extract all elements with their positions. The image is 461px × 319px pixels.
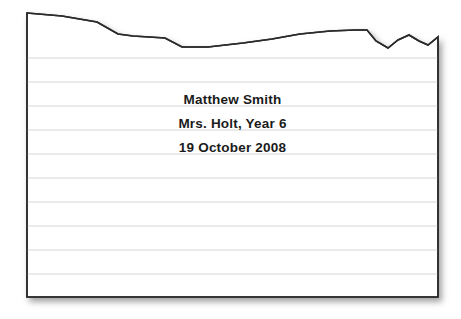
paper-sheet (0, 0, 461, 319)
screenshot-root: Matthew Smith Mrs. Holt, Year 6 19 Octob… (0, 0, 461, 319)
paper-body (27, 13, 438, 297)
paper-graphic (0, 0, 461, 319)
